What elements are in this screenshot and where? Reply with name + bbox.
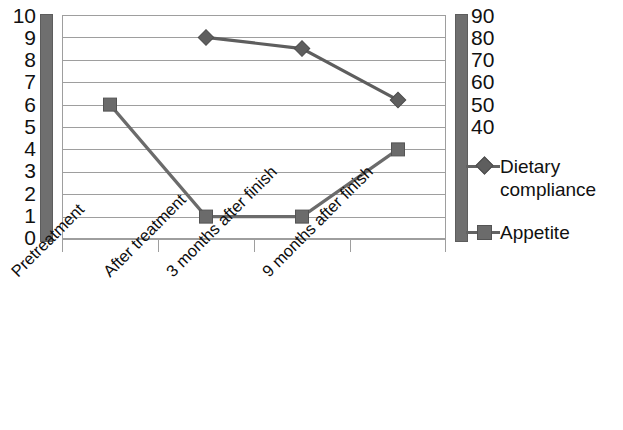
primary-tick-2: 2: [2, 183, 36, 204]
legend-item-dietary-compliance[interactable]: Dietary compliance: [466, 155, 622, 201]
secondary-tick-60: 60: [471, 71, 494, 92]
chart-figure: 10 9 8 7 6 5 4 3 2 1 0 90 80 70 60 50 40: [0, 0, 623, 430]
category-tick-2: [254, 239, 255, 252]
data-point-dietary-after-treatment: [198, 30, 214, 46]
primary-axis-scale-bar: [40, 14, 53, 242]
category-tick-1: [158, 239, 159, 252]
primary-tick-6: 6: [2, 94, 36, 115]
diamond-marker-icon: [466, 155, 500, 177]
data-point-dietary-3-months: [294, 41, 310, 57]
primary-tick-5: 5: [2, 116, 36, 137]
legend-item-appetite[interactable]: Appetite: [466, 221, 622, 244]
primary-tick-9: 9: [2, 27, 36, 48]
secondary-tick-70: 70: [471, 49, 494, 70]
series-dietary-compliance: [198, 30, 406, 108]
chart-legend: Dietary compliance Appetite: [466, 155, 622, 250]
secondary-tick-40: 40: [471, 116, 494, 137]
square-marker-icon: [466, 221, 500, 243]
legend-label-appetite: Appetite: [500, 221, 570, 244]
primary-tick-10: 10: [2, 5, 36, 26]
secondary-tick-50: 50: [471, 94, 494, 115]
data-point-appetite-9-months: [392, 143, 405, 156]
series-layer: [62, 15, 446, 239]
secondary-tick-80: 80: [471, 27, 494, 48]
primary-tick-8: 8: [2, 49, 36, 70]
category-tick-0: [62, 239, 63, 252]
category-tick-3: [350, 239, 351, 252]
data-point-appetite-pretreatment: [104, 98, 117, 111]
legend-label-dietary-compliance: Dietary compliance: [500, 155, 620, 201]
category-tick-4: [445, 239, 446, 252]
secondary-tick-90: 90: [471, 5, 494, 26]
primary-tick-4: 4: [2, 138, 36, 159]
primary-tick-3: 3: [2, 160, 36, 181]
primary-tick-1: 1: [2, 205, 36, 226]
series-appetite: [104, 98, 405, 223]
data-point-dietary-9-months: [390, 92, 406, 108]
primary-tick-7: 7: [2, 71, 36, 92]
